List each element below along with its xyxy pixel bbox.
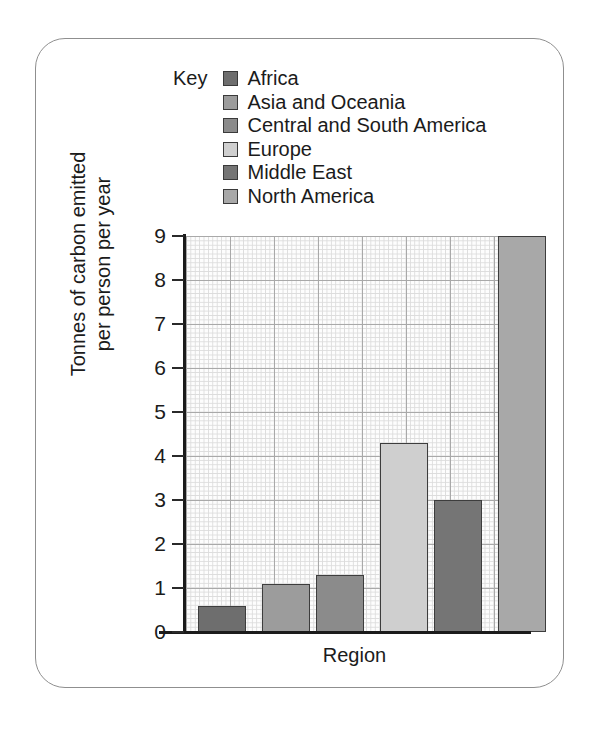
y-tick-label-4: 4	[130, 445, 166, 466]
y-axis-line	[183, 234, 186, 634]
y-tick-label-3: 3	[130, 489, 166, 510]
y-tick-4	[172, 455, 184, 457]
y-tick-label-8: 8	[130, 269, 166, 290]
bar-asia-and-oceania	[262, 584, 310, 632]
y-tick-label-1: 1	[130, 577, 166, 598]
y-tick-1	[172, 587, 184, 589]
y-tick-0	[172, 631, 184, 633]
y-tick-label-6: 6	[130, 357, 166, 378]
y-tick-3	[172, 499, 184, 501]
y-axis-label: Tonnes of carbon emitted per person per …	[66, 114, 116, 414]
bar-north-america	[498, 236, 546, 632]
y-axis-label-line-1: Tonnes of carbon emitted	[66, 114, 91, 414]
y-tick-label-7: 7	[130, 313, 166, 334]
y-tick-7	[172, 323, 184, 325]
x-axis-line	[159, 631, 531, 634]
y-tick-6	[172, 367, 184, 369]
y-tick-9	[172, 235, 184, 237]
bar-chart: Tonnes of carbon emitted per person per …	[36, 39, 565, 689]
y-tick-2	[172, 543, 184, 545]
plot-area	[186, 236, 523, 632]
y-tick-label-9: 9	[130, 225, 166, 246]
x-axis-label: Region	[186, 644, 523, 667]
y-tick-label-5: 5	[130, 401, 166, 422]
bar-central-and-south-america	[316, 575, 364, 632]
y-tick-label-2: 2	[130, 533, 166, 554]
bar-africa	[198, 606, 246, 632]
bar-europe	[380, 443, 428, 632]
y-axis-label-line-2: per person per year	[91, 114, 116, 414]
bar-middle-east	[434, 500, 482, 632]
y-tick-label-0: 0	[130, 621, 166, 642]
y-tick-8	[172, 279, 184, 281]
y-tick-5	[172, 411, 184, 413]
figure-card: Key Africa Asia and Oceania Central and …	[35, 38, 564, 688]
